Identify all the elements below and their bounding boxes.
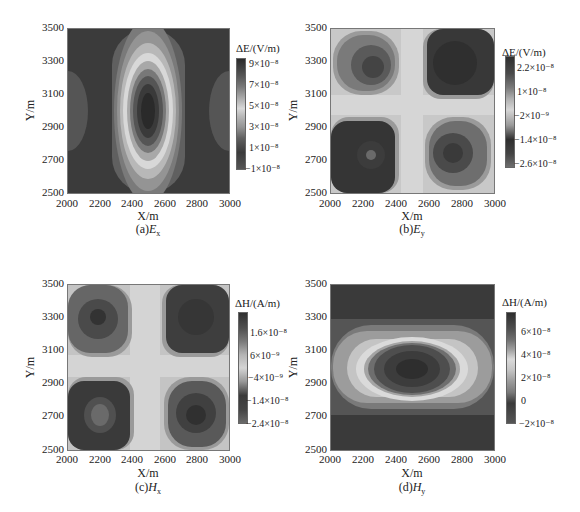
y-axis-label: Y/m	[23, 357, 38, 378]
xtick: 2400	[379, 197, 413, 209]
colorbar-title: ΔH/(A/m)	[502, 296, 547, 308]
xtick: 2400	[115, 197, 149, 209]
caption-sub: y	[421, 487, 425, 496]
xtick: 2800	[180, 197, 214, 209]
ytick: 3100	[293, 343, 327, 355]
contour-ey-graphic	[331, 29, 494, 193]
ytick: 2900	[293, 120, 327, 132]
ytick: 3100	[30, 343, 64, 355]
xtick: 2200	[346, 197, 380, 209]
caption-sub: x	[156, 229, 160, 238]
caption-sub: y	[421, 229, 425, 238]
colorbar	[506, 312, 516, 424]
colorbar-tick: 3×10⁻⁸	[249, 121, 278, 132]
caption-sub: x	[157, 487, 161, 496]
y-axis-label: Y/m	[286, 100, 301, 121]
colorbar-tick: −2×10⁻⁸	[519, 418, 554, 429]
caption-var: H	[148, 480, 157, 494]
colorbar-tick: −1×10⁻⁸	[245, 163, 280, 174]
xtick: 2200	[83, 197, 117, 209]
ytick: 3500	[293, 21, 327, 33]
x-axis-label: X/m	[118, 466, 178, 481]
xtick: 2000	[50, 197, 84, 209]
colorbar-tick: 5×10⁻⁸	[249, 100, 278, 111]
colorbar-tick: −2.4×10⁻⁸	[246, 418, 289, 429]
contour-hy-graphic	[331, 285, 494, 450]
colorbar-tick: −2×10⁻⁹	[514, 110, 549, 121]
colorbar-tick: −2.6×10⁻⁸	[514, 158, 557, 169]
colorbar-tick: 1×10⁻⁸	[249, 142, 278, 153]
xtick: 3000	[478, 453, 512, 465]
x-axis-label: X/m	[382, 466, 442, 481]
contour-hx-graphic	[68, 285, 229, 450]
ytick: 2700	[30, 409, 64, 421]
colorbar-tick: −4×10⁻⁹	[248, 372, 283, 383]
contour-plot-hx	[67, 284, 230, 451]
colorbar-tick: 2×10⁻⁸	[521, 372, 550, 383]
colorbar-title: ΔH/(A/m)	[235, 297, 280, 309]
colorbar-title: ΔE/(V/m)	[236, 42, 280, 54]
ytick: 3500	[293, 277, 327, 289]
colorbar-tick: −1.4×10⁻⁸	[514, 134, 557, 145]
caption-prefix: (d)	[399, 480, 413, 494]
xtick: 2000	[313, 453, 347, 465]
contour-ex-graphic	[68, 29, 229, 193]
ytick: 3100	[30, 87, 64, 99]
colorbar-tick: 9×10⁻⁸	[249, 58, 278, 69]
ytick: 2700	[30, 153, 64, 165]
xtick: 2400	[115, 453, 149, 465]
ytick: 3300	[30, 310, 64, 322]
caption-prefix: (c)	[135, 480, 148, 494]
xtick: 3000	[213, 197, 247, 209]
colorbar-tick: 7×10⁻⁸	[249, 79, 278, 90]
colorbar-tick: 6×10⁻⁸	[521, 326, 550, 337]
xtick: 2800	[180, 453, 214, 465]
contour-plot-hy	[330, 284, 495, 451]
panel-caption: (d)Hy	[372, 480, 452, 496]
caption-prefix: (a)	[136, 222, 149, 236]
ytick: 3500	[30, 21, 64, 33]
ytick: 3300	[293, 310, 327, 322]
ytick: 2700	[293, 153, 327, 165]
xtick: 2800	[445, 453, 479, 465]
xtick: 2000	[313, 197, 347, 209]
y-axis-label: Y/m	[286, 357, 301, 378]
xtick: 2600	[412, 453, 446, 465]
contour-plot-ey	[330, 28, 495, 194]
xtick: 3000	[213, 453, 247, 465]
colorbar-tick: 0	[521, 395, 526, 406]
colorbar-tick: 1.6×10⁻⁸	[250, 327, 287, 338]
ytick: 2900	[30, 120, 64, 132]
y-axis-label: Y/m	[23, 100, 38, 121]
ytick: 3300	[293, 54, 327, 66]
xtick: 2400	[379, 453, 413, 465]
colorbar	[238, 312, 248, 424]
ytick: 3300	[30, 54, 64, 66]
panel-caption: (c)Hx	[108, 480, 188, 496]
contour-plot-ex	[67, 28, 230, 194]
xtick: 2000	[50, 453, 84, 465]
xtick: 2200	[346, 453, 380, 465]
panel-caption: (a)Ex	[108, 222, 188, 238]
xtick: 3000	[478, 197, 512, 209]
xtick: 2200	[83, 453, 117, 465]
caption-var: E	[413, 222, 420, 236]
ytick: 3100	[293, 87, 327, 99]
panel-caption: (b)Ey	[372, 222, 452, 238]
colorbar-tick: 4×10⁻⁸	[521, 349, 550, 360]
xtick: 2600	[148, 453, 182, 465]
xtick: 2600	[412, 197, 446, 209]
colorbar	[236, 58, 246, 170]
xtick: 2600	[148, 197, 182, 209]
colorbar-tick: 6×10⁻⁹	[250, 350, 279, 361]
caption-prefix: (b)	[399, 222, 413, 236]
ytick: 2700	[293, 409, 327, 421]
colorbar-tick: 1×10⁻⁸	[517, 86, 546, 97]
xtick: 2800	[445, 197, 479, 209]
colorbar-tick: 2.2×10⁻⁸	[517, 62, 554, 73]
ytick: 3500	[30, 277, 64, 289]
colorbar-tick: −1.4×10⁻⁸	[246, 395, 289, 406]
